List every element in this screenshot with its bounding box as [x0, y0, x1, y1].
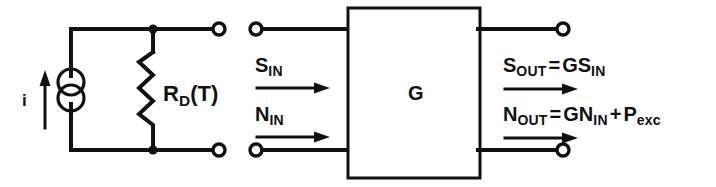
signal-out-operator: = — [547, 54, 563, 76]
signal-out-rhs-main: GS — [562, 54, 591, 76]
noise-out-lhs-subscript: OUT — [517, 112, 547, 128]
noise-in-arrow-head — [314, 132, 330, 143]
noise-out-plus-operator: + — [608, 103, 624, 125]
circuit-vector-layer — [0, 0, 716, 187]
current-source-label: i — [22, 92, 27, 109]
signal-in-arrow-head — [314, 83, 330, 94]
noise-out-excess-main: P — [623, 103, 636, 125]
resistor-zigzag-icon — [139, 52, 153, 131]
amplifier-output-terminal-bottom — [557, 144, 569, 156]
signal-out-equation: SOUT=GSIN — [503, 55, 606, 75]
signal-out-rhs-subscript: IN — [591, 63, 605, 79]
noise-out-rhs-subscript: IN — [593, 112, 607, 128]
signal-in-label-main: S — [255, 54, 268, 76]
signal-in-label: SIN — [255, 55, 283, 75]
amplifier-gain-label: G — [408, 83, 424, 103]
amplifier-output-terminal-top — [557, 23, 569, 35]
noise-out-arrow-head — [562, 133, 578, 144]
noise-in-label-main: N — [255, 103, 269, 125]
junction-dot-bottom — [148, 145, 157, 154]
source-output-terminal-bottom — [213, 144, 225, 156]
signal-out-arrow-head — [562, 84, 578, 95]
noise-out-equation: NOUT=GNIN+Pexc — [503, 104, 661, 124]
circuit-diagram: i RD(T) G SIN NIN SOUT=GSIN NOUT=GNIN+Pe… — [0, 0, 716, 187]
source-output-terminal-top — [213, 23, 225, 35]
noise-out-rhs-main: GN — [563, 103, 593, 125]
signal-in-label-subscript: IN — [268, 63, 282, 79]
resistor-label-main: R — [163, 81, 179, 106]
junction-dot-top — [148, 24, 157, 33]
resistor-label: RD(T) — [163, 83, 218, 105]
signal-out-lhs-main: S — [503, 54, 516, 76]
noise-in-label-subscript: IN — [269, 112, 283, 128]
signal-out-lhs-subscript: OUT — [516, 63, 546, 79]
noise-out-lhs-main: N — [503, 103, 517, 125]
current-arrow-head — [40, 70, 51, 86]
noise-out-excess-subscript: exc — [637, 112, 661, 128]
resistor-label-subscript: D — [179, 92, 190, 109]
noise-in-label: NIN — [255, 104, 284, 124]
noise-out-operator: = — [548, 103, 564, 125]
resistor-label-argument: (T) — [190, 81, 218, 106]
